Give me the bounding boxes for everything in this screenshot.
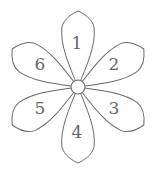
petal-label-1: 1 [72, 33, 83, 53]
flower-center [71, 80, 85, 94]
petal-label-2: 2 [109, 54, 120, 74]
petal-label-4: 4 [72, 122, 83, 142]
flower-diagram: 1 2 3 4 5 6 [0, 0, 154, 175]
petal-label-3: 3 [109, 98, 120, 118]
petal-label-5: 5 [35, 98, 46, 118]
petal-label-6: 6 [35, 54, 46, 74]
